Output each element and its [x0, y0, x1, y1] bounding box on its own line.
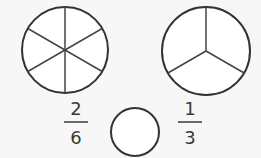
circle-sixths — [22, 7, 108, 93]
fraction-comparison-diagram: 2 6 1 3 — [0, 0, 261, 158]
fraction-left-denominator: 6 — [70, 127, 81, 148]
circle-thirds — [162, 7, 250, 95]
fraction-right-numerator: 1 — [184, 98, 195, 119]
fraction-right-denominator: 3 — [184, 127, 195, 148]
comparison-answer-circle[interactable] — [111, 108, 159, 156]
fraction-left-numerator: 2 — [70, 98, 81, 119]
